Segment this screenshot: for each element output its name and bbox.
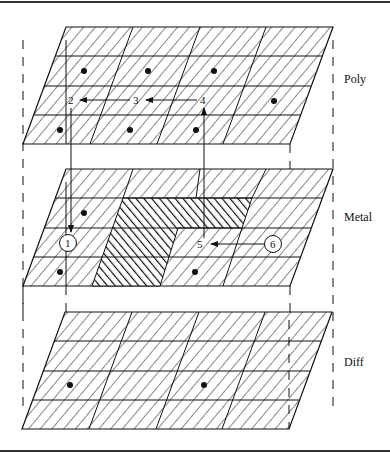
layer-label-diff: Diff [344,355,364,369]
layer-grid-diagram: 2 3 4 Poly 1 5 6 Metal [0,0,390,453]
diff-layer: Diff [22,312,364,429]
layer-label-metal: Metal [344,210,373,224]
point-5-label: 5 [197,238,203,250]
point-4-label: 4 [200,94,206,106]
layer-label-poly: Poly [344,72,366,86]
point-3-label: 3 [133,94,139,106]
point-1-label: 1 [65,237,71,249]
metal-layer: 1 5 6 Metal [23,169,373,286]
point-2-label: 2 [68,94,74,106]
point-6-label: 6 [270,238,276,250]
poly-layer: 2 3 4 Poly [23,27,366,144]
